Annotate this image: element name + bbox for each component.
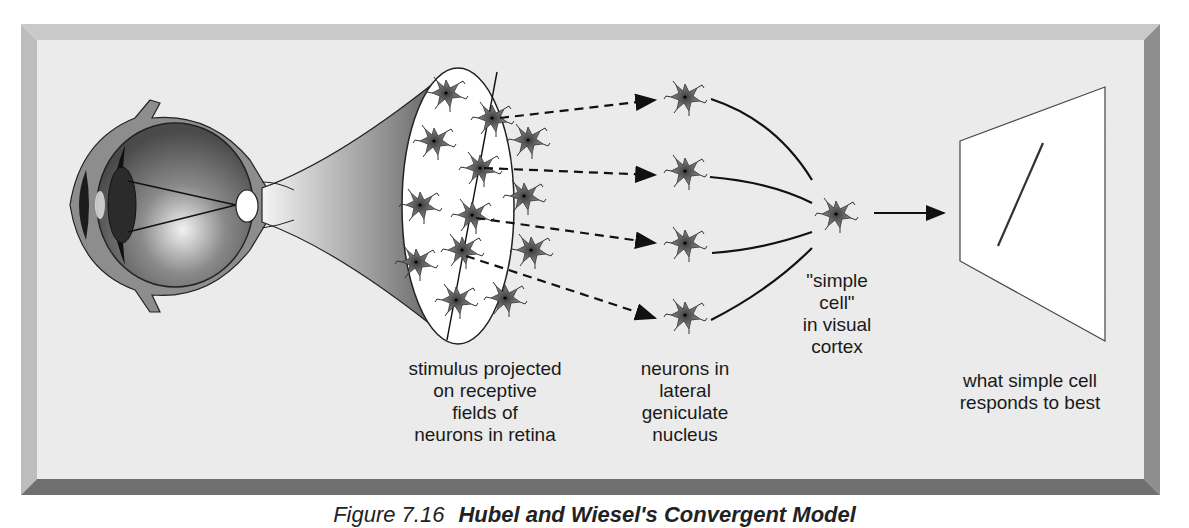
figure-caption: Figure 7.16Hubel and Wiesel's Convergent… bbox=[0, 502, 1189, 528]
simple-cell-neuron bbox=[815, 198, 858, 233]
label-simple-cell: "simple cell" in visual cortex bbox=[772, 270, 902, 358]
label-stimulus: what simple cell responds to best bbox=[930, 370, 1130, 414]
label-lgn: neurons in lateral geniculate nucleus bbox=[610, 358, 760, 446]
label-retina: stimulus projected on receptive fields o… bbox=[380, 358, 590, 446]
retina-receptive-field-disc bbox=[395, 68, 553, 344]
stimulus-screen bbox=[960, 87, 1105, 341]
lgn-neurons bbox=[664, 81, 707, 334]
eye-illustration bbox=[70, 100, 272, 312]
figure-number: Figure 7.16 bbox=[333, 502, 444, 527]
figure-title: Hubel and Wiesel's Convergent Model bbox=[458, 502, 855, 527]
